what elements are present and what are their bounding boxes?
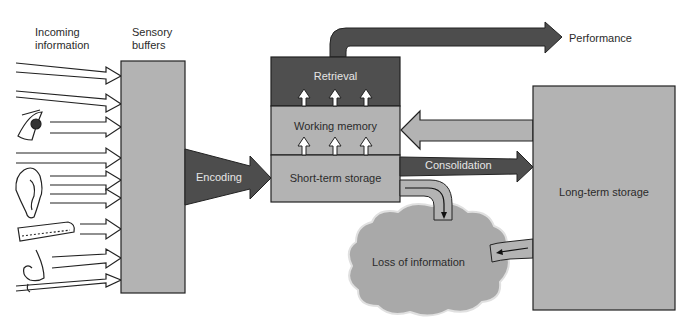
incoming-information-label: Incoming information [35,26,89,52]
ear-icon [16,168,42,218]
eye-icon [18,110,42,140]
incoming-label-line1: Incoming [35,26,89,39]
performance-arrow [330,22,562,57]
working-memory-label: Working memory [271,120,400,133]
incoming-label-line2: information [35,39,89,52]
sensory-label-line2: buffers [132,39,172,52]
retrieval-label: Retrieval [271,70,400,83]
encoding-label: Encoding [196,171,242,184]
consolidation-label: Consolidation [425,159,492,172]
finger-icon [18,222,74,241]
short-term-storage-label: Short-term storage [271,172,400,185]
sensory-label-line1: Sensory [132,26,172,39]
loss-of-information-label: Loss of information [372,256,465,269]
retrieval-from-lts-arrow [401,111,533,149]
sensory-buffers-label: Sensory buffers [132,26,172,52]
long-term-storage-label: Long-term storage [533,186,675,199]
performance-label: Performance [569,32,632,45]
memory-diagram-canvas [0,0,692,321]
sensory-buffers-box [121,61,185,293]
